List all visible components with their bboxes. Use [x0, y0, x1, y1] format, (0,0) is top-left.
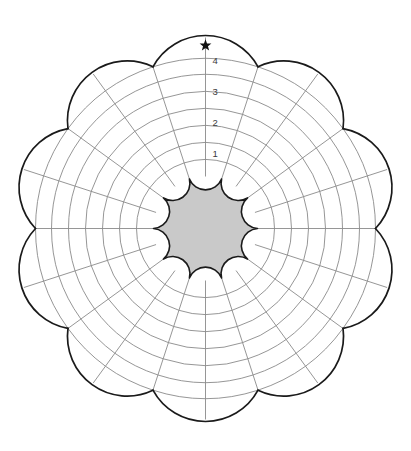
ring-tick-label-1: 1	[213, 148, 218, 159]
rosette-polar-grid: 1234	[0, 0, 411, 451]
ring-tick-label-3: 3	[213, 86, 218, 97]
ring-tick-label-2: 2	[213, 117, 218, 128]
ring-tick-label-4: 4	[213, 55, 218, 66]
rosette-chart-container: 1234	[0, 0, 411, 451]
